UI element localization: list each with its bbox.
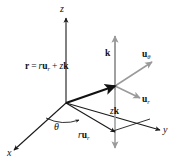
k-label-bold: k (105, 48, 110, 58)
x-axis-label: x (7, 148, 11, 158)
u-theta-label-subscript: θ (147, 53, 150, 60)
u-r-label-subscript: r (147, 98, 150, 105)
equation-equals: = (31, 61, 36, 71)
rur-component-label: rur (78, 131, 90, 141)
u-theta-unit-vector-label: uθ (142, 50, 151, 60)
r-u-r-vector (66, 103, 115, 132)
theta-arc (46, 118, 79, 123)
position-vector-r (66, 86, 115, 103)
zk-component-label: zk (110, 107, 119, 117)
equation-r-bold: r (25, 61, 29, 71)
y-axis-label: y (163, 125, 167, 135)
equation-plus: + (52, 61, 57, 71)
cylindrical-coordinates-figure: z y x θ r=rur+zk k uθ ur zk rur (0, 0, 179, 165)
z-axis-label: z (60, 4, 64, 14)
equation-k-bold: k (63, 61, 68, 71)
position-vector-equation: r=rur+zk (25, 62, 68, 72)
equation-u-subscript: r (48, 65, 51, 72)
k-unit-vector-label: k (105, 49, 110, 59)
u-theta-vector (115, 62, 152, 86)
u-r-unit-vector-label: ur (142, 95, 150, 105)
u-r-vector (115, 86, 140, 98)
theta-angle-label: θ (54, 122, 59, 132)
zk-label-bold: k (114, 106, 119, 116)
rur-label-subscript: r (87, 134, 90, 141)
